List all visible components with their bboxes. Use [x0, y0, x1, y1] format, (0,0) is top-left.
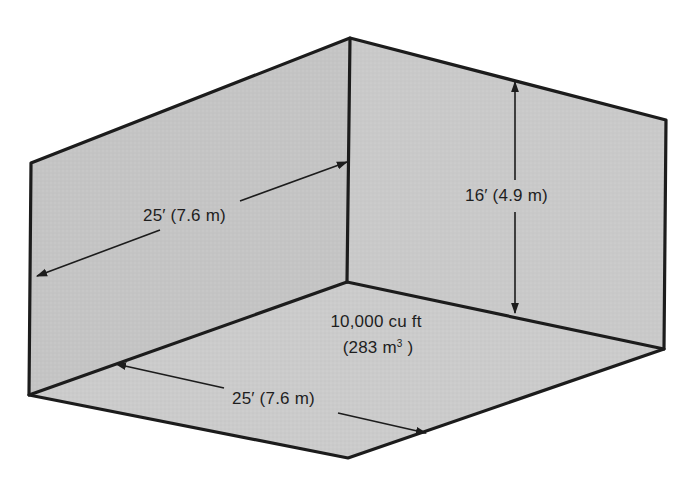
width-dimension-label: 25′ (7.6 m): [232, 390, 315, 407]
volume-metric-value: (283 m: [343, 338, 397, 357]
depth-dimension-label: 25′ (7.6 m): [143, 207, 226, 224]
volume-imperial-label: 10,000 cu ft: [330, 313, 421, 330]
height-dimension-label: 16′ (4.9 m): [465, 187, 548, 204]
volume-metric-close: ): [403, 338, 414, 357]
room-volume-diagram: [0, 0, 690, 494]
volume-metric-label: (283 m3 ): [343, 339, 414, 356]
